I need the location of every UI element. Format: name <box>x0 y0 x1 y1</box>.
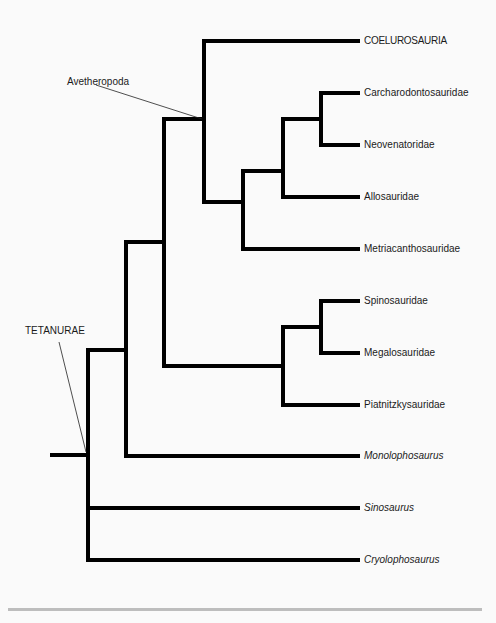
tetanurae-leader-line <box>59 342 86 452</box>
clade-label-tetanurae: TETANURAE <box>25 325 85 337</box>
taxon-label-cryolophosaurus: Cryolophosaurus <box>364 554 440 566</box>
taxon-label-neovenatoridae: Neovenatoridae <box>364 139 435 151</box>
taxon-label-coelurosauria: COELUROSAURIA <box>364 35 447 47</box>
bottom-divider <box>8 608 482 611</box>
avetheropoda-leader-line <box>96 85 202 119</box>
taxon-label-megalosauridae: Megalosauridae <box>364 347 435 359</box>
taxon-label-piatnitzkysauridae: Piatnitzkysauridae <box>364 399 445 411</box>
clade-label-avetheropoda: Avetheropoda <box>67 76 129 88</box>
taxon-label-allosauridae: Allosauridae <box>364 191 419 203</box>
taxon-label-carcharodontosauridae: Carcharodontosauridae <box>364 87 469 99</box>
taxon-label-sinosaurus: Sinosaurus <box>364 502 414 514</box>
taxon-label-metriacanthosauridae: Metriacanthosauridae <box>364 243 460 255</box>
taxon-label-monolophosaurus: Monolophosaurus <box>364 450 444 462</box>
taxon-label-spinosauridae: Spinosauridae <box>364 295 428 307</box>
